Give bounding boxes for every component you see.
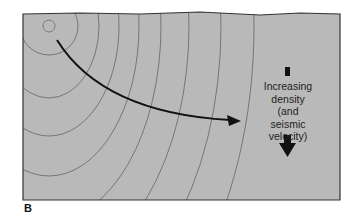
annotation-line: density <box>258 93 318 106</box>
annotation-line: velocity) <box>258 130 318 143</box>
density-arrow-tail-icon <box>285 67 290 76</box>
annotation-line: Increasing <box>258 80 318 93</box>
annotation-line: (and <box>258 105 318 118</box>
panel-label: B <box>24 202 32 214</box>
annotation-line: seismic <box>258 118 318 131</box>
density-annotation: Increasing density (and seismic velocity… <box>258 80 318 143</box>
